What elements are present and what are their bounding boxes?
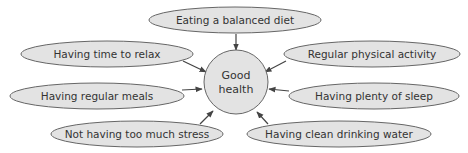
- node-label: Having clean drinking water: [265, 128, 414, 140]
- node-relax: Having time to relax: [21, 41, 193, 67]
- node-label: Eating a balanced diet: [176, 14, 294, 26]
- node-activity: Regular physical activity: [284, 41, 460, 67]
- node-meals: Having regular meals: [10, 83, 184, 109]
- node-label: Having regular meals: [41, 90, 154, 102]
- arrow-sleep: [269, 89, 289, 91]
- arrow-activity: [265, 61, 286, 72]
- node-label: Having plenty of sleep: [315, 90, 433, 102]
- center-node: Good health: [204, 50, 268, 114]
- arrow-relax: [183, 61, 206, 72]
- center-label-line2: health: [219, 83, 254, 96]
- node-diet: Eating a balanced diet: [149, 7, 321, 33]
- node-label: Not having too much stress: [65, 128, 210, 140]
- arrow-meals: [182, 89, 202, 90]
- node-label: Regular physical activity: [308, 48, 437, 60]
- good-health-diagram: Good health Eating a balanced diet Havin…: [0, 0, 468, 153]
- node-label: Having time to relax: [53, 48, 160, 60]
- node-sleep: Having plenty of sleep: [289, 83, 459, 109]
- node-water: Having clean drinking water: [247, 121, 431, 147]
- node-stress: Not having too much stress: [51, 121, 223, 147]
- arrow-stress: [200, 111, 213, 124]
- center-label-line1: Good: [222, 69, 251, 82]
- arrow-water: [257, 112, 268, 124]
